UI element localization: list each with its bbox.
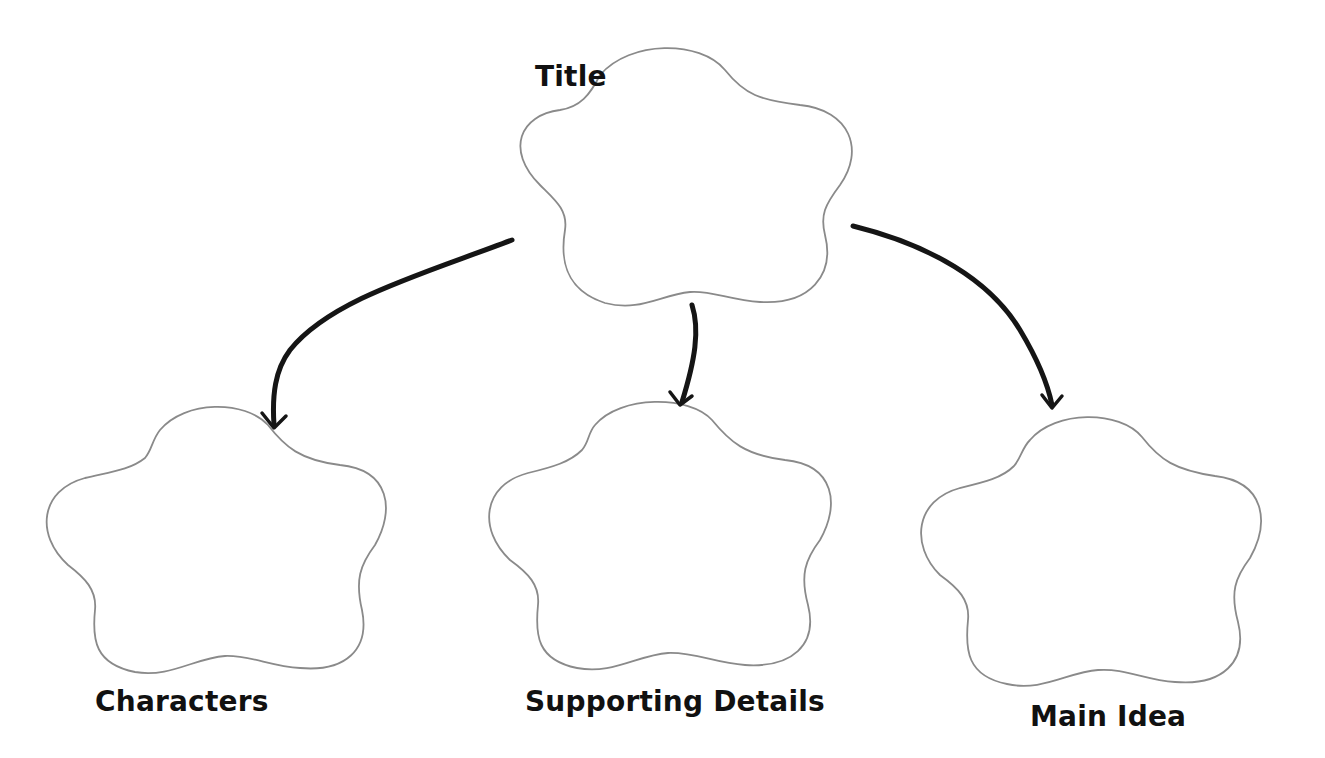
diagram-canvas bbox=[0, 0, 1325, 758]
label-supporting-details: Supporting Details bbox=[525, 685, 825, 718]
arrow-title-to-characters bbox=[262, 240, 512, 428]
cloud-characters bbox=[47, 407, 386, 673]
cloud-supporting-details bbox=[489, 402, 831, 670]
arrow-title-to-main-idea bbox=[853, 226, 1062, 408]
cloud-main-idea bbox=[921, 417, 1261, 686]
label-main-idea: Main Idea bbox=[1030, 700, 1186, 733]
arrow-title-to-supporting-details bbox=[670, 305, 696, 405]
label-title: Title bbox=[535, 60, 607, 93]
label-characters: Characters bbox=[95, 685, 269, 718]
